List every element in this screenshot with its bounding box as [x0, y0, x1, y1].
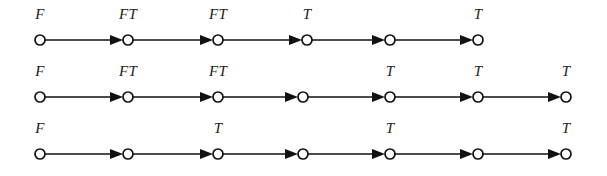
chain-node[interactable]: [385, 149, 395, 159]
chain-node[interactable]: [35, 92, 45, 102]
chain-diagram-figure: FFTFTTTFFTFTTTTFTTT: [0, 0, 607, 176]
chain-node[interactable]: [298, 149, 308, 159]
chain-node[interactable]: [473, 35, 483, 45]
chain-node[interactable]: [35, 35, 45, 45]
chain-node-label: F: [34, 120, 45, 136]
chain-node[interactable]: [385, 92, 395, 102]
chain-node-label: T: [386, 63, 396, 79]
chain-node-label: F: [34, 63, 45, 79]
chain-node-label: T: [214, 120, 224, 136]
chain-node[interactable]: [561, 92, 571, 102]
chain-node[interactable]: [35, 149, 45, 159]
chain-node-label: FT: [118, 6, 138, 22]
chain-node-label: F: [34, 6, 45, 22]
chain-node-label: T: [562, 63, 572, 79]
chain-node[interactable]: [473, 149, 483, 159]
chain-node-label: T: [474, 6, 484, 22]
chain-node[interactable]: [473, 92, 483, 102]
chain-node[interactable]: [561, 149, 571, 159]
chain-node-label: FT: [118, 63, 138, 79]
chain-node[interactable]: [298, 92, 308, 102]
chain-node-label: FT: [208, 63, 228, 79]
chain-node[interactable]: [213, 149, 223, 159]
chain-node[interactable]: [213, 92, 223, 102]
chain-node-label: T: [303, 6, 313, 22]
chain-node-label: T: [562, 120, 572, 136]
chain-node[interactable]: [385, 35, 395, 45]
chain-node[interactable]: [123, 149, 133, 159]
chain-node[interactable]: [213, 35, 223, 45]
chain-node-label: FT: [208, 6, 228, 22]
chain-node[interactable]: [123, 92, 133, 102]
chain-node[interactable]: [123, 35, 133, 45]
chain-node-label: T: [474, 63, 484, 79]
chain-node[interactable]: [302, 35, 312, 45]
chain-node-label: T: [386, 120, 396, 136]
